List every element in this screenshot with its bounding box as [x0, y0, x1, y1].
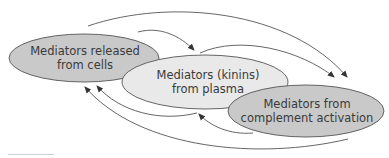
- node-plasma-line2: from plasma: [156, 82, 259, 96]
- node-cells-label: Mediators released from cells: [30, 44, 140, 72]
- node-plasma-label: Mediators (kinins) from plasma: [156, 68, 259, 96]
- divider: [8, 154, 54, 155]
- node-complement-label: Mediators from complement activation: [241, 97, 374, 125]
- node-plasma-line1: Mediators (kinins): [156, 68, 259, 82]
- node-complement-line1: Mediators from: [241, 97, 374, 111]
- node-cells-line2: from cells: [30, 58, 140, 72]
- node-cells-line1: Mediators released: [30, 44, 140, 58]
- node-complement-line2: complement activation: [241, 111, 374, 125]
